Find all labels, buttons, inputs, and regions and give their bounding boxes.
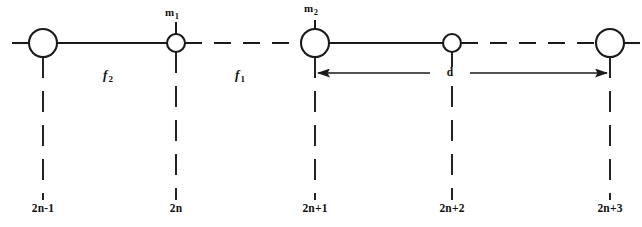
mass-label-m2: m2 xyxy=(304,3,318,16)
site-circle-2n-1[interactable] xyxy=(29,29,57,57)
mass-label-m2-symbol: m xyxy=(304,2,313,14)
lattice-svg xyxy=(0,0,642,227)
mass-label-m1-subscript: 1 xyxy=(174,11,179,21)
mass-ticks-layer xyxy=(176,20,315,35)
site-label-2n: 2n xyxy=(170,203,183,215)
site-label-2n-1: 2n-1 xyxy=(32,203,55,215)
site-label-2n+2: 2n+2 xyxy=(439,203,464,215)
site-circle-2n[interactable] xyxy=(167,34,185,52)
spring-label-f2: f2 xyxy=(103,68,113,84)
guidelines-layer xyxy=(43,52,610,200)
spring-label-f2-subscript: 2 xyxy=(107,74,113,84)
site-label-2n+1: 2n+1 xyxy=(302,203,327,215)
spring-label-f1-subscript: 1 xyxy=(239,74,245,84)
site-circle-2n+3[interactable] xyxy=(596,29,624,57)
spring-label-f1: f1 xyxy=(235,68,245,84)
lattice-diagram: m1 m2 f2 f1 d 2n-1 2n 2n+1 2n+2 2n+3 xyxy=(0,0,642,227)
site-circle-2n+2[interactable] xyxy=(443,34,461,52)
mass-label-m1-symbol: m xyxy=(165,6,174,18)
dimension-label-d: d xyxy=(443,67,457,79)
mass-label-m1: m1 xyxy=(165,7,179,20)
mass-label-m2-subscript: 2 xyxy=(313,7,318,17)
site-label-2n+3: 2n+3 xyxy=(597,203,622,215)
site-circle-2n+1[interactable] xyxy=(301,29,329,57)
